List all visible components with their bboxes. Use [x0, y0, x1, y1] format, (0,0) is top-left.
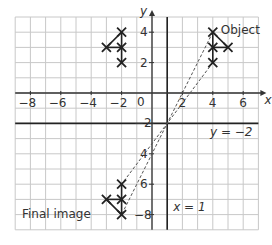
- object-label: Object: [221, 24, 260, 36]
- x-axis-label: x: [264, 94, 271, 106]
- x-tick-label: −6: [49, 97, 67, 109]
- y-tick-label: 4: [140, 26, 148, 38]
- final-image-label: Final image: [22, 208, 91, 220]
- y-arrow-icon: [149, 10, 155, 16]
- x-tick-label: −4: [79, 97, 97, 109]
- y-tick-label: −8: [134, 209, 152, 221]
- x-tick-label: 4: [209, 97, 217, 109]
- x-tick-label: 6: [239, 97, 247, 109]
- mirror-x-equals-1-label: x = 1: [173, 201, 205, 213]
- y-tick-label: 6: [140, 178, 148, 190]
- shape-final-image: [102, 180, 126, 219]
- y-tick-label: 4: [140, 148, 148, 160]
- shape-first-image: [102, 28, 126, 67]
- x-tick-label: −2: [110, 97, 128, 109]
- y-axis-label: y: [140, 5, 147, 17]
- y-tick-label: −2: [134, 117, 152, 129]
- origin-label: 0: [137, 96, 145, 108]
- y-tick-label: 2: [140, 57, 148, 69]
- x-tick-label: 2: [178, 97, 186, 109]
- mirror-y-equals-neg2-label: y = −2: [210, 126, 252, 138]
- x-tick-label: −8: [18, 97, 36, 109]
